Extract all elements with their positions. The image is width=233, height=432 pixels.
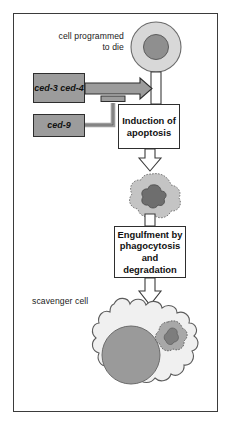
gene-box-ced3-ced4: ced-3 ced-4 xyxy=(33,73,85,103)
flow-arrow-induction-to-apoptotic xyxy=(139,149,161,171)
process-box-engulfment-phagocytosis: Engulfment by phagocytosis and degradati… xyxy=(114,226,186,278)
flow-arrow-cell-to-induction xyxy=(151,72,161,104)
label-scavenger-cell: scavenger cell xyxy=(32,296,88,307)
scavenger-cell-graphic xyxy=(92,298,197,384)
flow-arrow-apoptotic-to-engulfment xyxy=(145,214,155,226)
diagram-canvas xyxy=(0,0,233,432)
gene-box-ced9: ced-9 xyxy=(33,114,85,137)
label-dying-cell: cell programmed to die xyxy=(48,31,124,52)
process-box-induction-of-apoptosis: Induction of apoptosis xyxy=(118,104,180,149)
healthy-cell-graphic xyxy=(131,22,181,72)
apoptotic-body-graphic xyxy=(130,174,181,218)
